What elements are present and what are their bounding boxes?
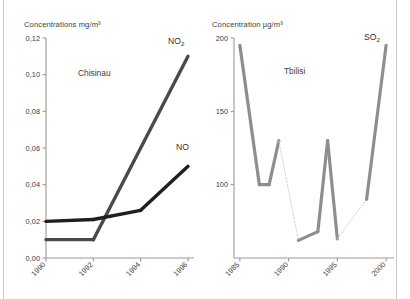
y-axis-tick-label: 0,08 [26,107,40,116]
figure-container: Concentrations mg/m³ Chisinau NO2 NO 0,0… [0,0,410,299]
series-line-segment [298,232,318,241]
y-axis-tick-label: 0,02 [26,217,40,226]
chart-panel-tbilisi: Concentration µg/m³ Tbilisi SO2 10015020… [204,0,404,299]
series-line-segment [269,141,279,185]
y-axis-tick-label: 0,00 [26,254,40,263]
series-line-segment [93,210,140,219]
series-line-segment [141,166,188,210]
chart-plot-chisinau: 0,000,020,040,060,080,100,12199019921994… [8,0,204,299]
y-axis-tick-label: 0,12 [26,34,40,43]
series-line-segment [367,45,387,199]
chart-plot-tbilisi: 1001502001985199019952000 [204,0,404,299]
x-axis-tick-label: 1990 [272,260,290,278]
series-line-segment [240,45,260,184]
series-line-segment [328,141,338,239]
y-axis-tick-label: 100 [216,180,228,189]
page-edge-rule-left [3,0,4,299]
x-axis-tick-label: 1994 [124,260,142,278]
series-gap-segment [337,199,366,239]
series-line-segment [93,56,188,239]
chart-panel-chisinau: Concentrations mg/m³ Chisinau NO2 NO 0,0… [8,0,204,299]
y-axis-tick-label: 150 [216,107,228,116]
y-axis-tick-label: 0,10 [26,70,40,79]
series-line-segment [318,141,328,232]
x-axis-tick-label: 1996 [171,260,189,278]
y-axis-tick-label: 0,06 [26,144,40,153]
x-axis-tick-label: 1995 [321,260,339,278]
y-axis-tick-label: 200 [216,34,228,43]
series-gap-segment [279,141,299,241]
x-axis-tick-label: 1985 [223,260,241,278]
x-axis-tick-label: 2000 [370,260,388,278]
x-axis-tick-label: 1990 [29,260,47,278]
series-line-segment [46,220,93,222]
x-axis-tick-label: 1992 [77,260,95,278]
y-axis-tick-label: 0,04 [26,180,40,189]
